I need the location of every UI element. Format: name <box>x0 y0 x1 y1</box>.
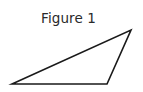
triangle-shape <box>12 30 131 84</box>
triangle-diagram <box>0 0 143 92</box>
figure-canvas: Figure 1 <box>0 0 143 92</box>
